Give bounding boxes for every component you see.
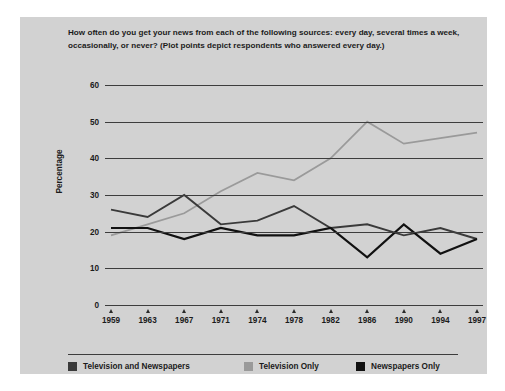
chart-legend: Television and NewspapersTelevision Only… [68,362,468,382]
x-tick-label-1963: 1963 [138,316,156,325]
chart-title: How often do you get your news from each… [68,27,468,52]
x-tick-mark-1997 [475,309,479,313]
legend-item-television-and-newspapers[interactable]: Television and Newspapers [68,362,190,371]
x-tick-label-1978: 1978 [285,316,303,325]
chart-figure: How often do you get your news from each… [20,17,487,374]
gridline-60 [105,85,483,86]
gridline-50 [105,122,483,123]
y-tick-label-20: 20 [90,227,105,236]
x-tick-label-1974: 1974 [248,316,266,325]
x-tick-mark-1963 [146,309,150,313]
x-tick-mark-1990 [402,309,406,313]
x-tick-label-1994: 1994 [431,316,449,325]
legend-label: Newspapers Only [371,362,440,371]
legend-swatch-icon [68,362,77,371]
legend-label: Television and Newspapers [83,362,190,371]
x-tick-mark-1986 [365,309,369,313]
y-tick-label-60: 60 [90,81,105,90]
x-tick-label-1971: 1971 [212,316,230,325]
y-tick-label-0: 0 [94,301,105,310]
y-tick-label-40: 40 [90,154,105,163]
x-tick-label-1982: 1982 [321,316,339,325]
x-tick-label-1997: 1997 [468,316,486,325]
gridline-20 [105,232,483,233]
x-tick-mark-1959 [109,309,113,313]
legend-item-newspapers-only[interactable]: Newspapers Only [356,362,440,371]
x-tick-mark-1978 [292,309,296,313]
x-tick-mark-1982 [329,309,333,313]
series-lines [85,68,483,339]
gridline-40 [105,158,483,159]
y-tick-label-30: 30 [90,191,105,200]
x-tick-label-1990: 1990 [395,316,413,325]
x-tick-mark-1974 [255,309,259,313]
x-tick-mark-1967 [182,309,186,313]
y-tick-label-50: 50 [90,117,105,126]
x-tick-label-1959: 1959 [102,316,120,325]
gridline-30 [105,195,483,196]
x-tick-mark-1971 [219,309,223,313]
legend-swatch-icon [356,362,365,371]
gridline-10 [105,268,483,269]
y-tick-label-10: 10 [90,264,105,273]
series-line-newspapers-only [111,224,477,257]
x-tick-mark-1994 [438,309,442,313]
series-line-television-only [111,122,477,236]
legend-swatch-icon [244,362,253,371]
legend-divider [68,354,458,355]
y-axis-label: Percentage [55,127,64,217]
legend-label: Television Only [259,362,319,371]
x-tick-label-1967: 1967 [175,316,193,325]
x-tick-label-1986: 1986 [358,316,376,325]
plot-area: 0102030405060 19591963196719711974197819… [85,68,483,339]
gridline-0 [105,305,483,306]
legend-item-television-only[interactable]: Television Only [244,362,319,371]
